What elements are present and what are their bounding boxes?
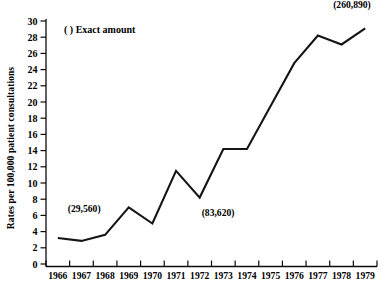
y-tick-label: 14 — [28, 145, 38, 156]
line-chart: 024681012141618202224262830 196619671968… — [0, 0, 387, 289]
y-tick-label: 26 — [28, 48, 38, 59]
x-tick-label: 1970 — [143, 270, 162, 281]
x-tick-label: 1977 — [308, 270, 327, 281]
y-tick-label: 30 — [28, 16, 38, 27]
y-tick-label: 12 — [28, 161, 38, 172]
data-annotation: (260,890) — [333, 0, 371, 11]
x-tick-label: 1967 — [72, 270, 91, 281]
y-tick-label: 22 — [28, 80, 38, 91]
x-tick-labels: 1966196719681969197019711972197319741975… — [48, 270, 375, 281]
x-tick-label: 1968 — [96, 270, 115, 281]
x-tick-label: 1969 — [119, 270, 138, 281]
y-tick-label: 24 — [28, 64, 38, 75]
y-tick-label: 2 — [33, 242, 38, 253]
y-tick-label: 4 — [33, 226, 38, 237]
x-tick-label: 1974 — [237, 270, 256, 281]
y-tick-label: 0 — [33, 259, 38, 270]
chart-canvas: 024681012141618202224262830 196619671968… — [0, 0, 387, 289]
y-tick-label: 8 — [33, 194, 38, 205]
y-tick-labels: 024681012141618202224262830 — [28, 16, 38, 270]
y-axis-title-text: Rates per 100,000 patient consultations — [6, 67, 16, 230]
data-annotation: (29,560) — [68, 203, 101, 215]
y-tick-label: 18 — [28, 113, 38, 124]
y-tick-label: 16 — [28, 129, 38, 140]
x-tick-label: 1966 — [48, 270, 67, 281]
x-tick-label: 1973 — [214, 270, 233, 281]
x-axis — [46, 261, 377, 267]
x-tick-label: 1972 — [190, 270, 209, 281]
data-annotation: (83,620) — [202, 207, 235, 219]
y-tick-label: 10 — [28, 178, 38, 189]
legend-label: ( ) Exact amount — [64, 24, 136, 36]
y-tick-label: 20 — [28, 97, 38, 108]
y-axis — [41, 19, 47, 267]
x-tick-label: 1975 — [261, 270, 280, 281]
x-tick-label: 1976 — [285, 270, 304, 281]
x-tick-label: 1971 — [166, 270, 185, 281]
chart-legend: ( ) Exact amount — [64, 24, 136, 36]
y-tick-label: 6 — [33, 210, 38, 221]
y-axis-title: Rates per 100,000 patient consultations — [6, 67, 16, 230]
x-tick-label: 1978 — [332, 270, 351, 281]
x-tick-label: 1979 — [356, 270, 375, 281]
y-tick-label: 28 — [28, 32, 38, 43]
